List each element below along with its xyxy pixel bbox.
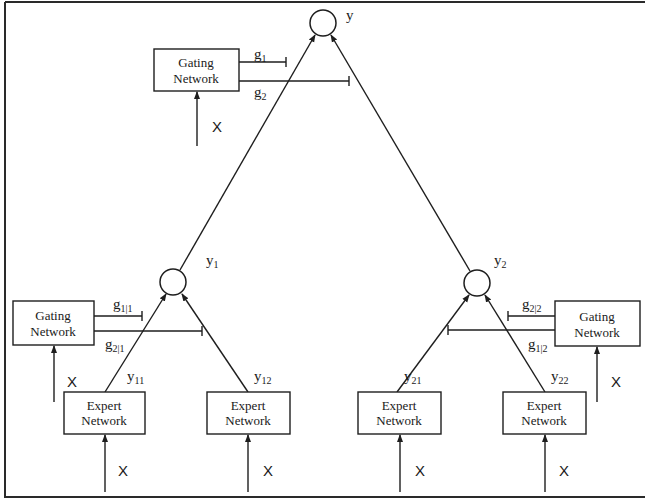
y1-label: y1 <box>206 252 219 270</box>
y2-label: y2 <box>494 252 507 270</box>
top-gating-line2: Network <box>173 71 219 86</box>
expert-11-line2: Network <box>81 413 127 428</box>
edge-y2-to-y <box>331 35 470 271</box>
right-gating-input-label: X <box>611 373 621 390</box>
expert-11-output-label: y11 <box>127 368 144 386</box>
expert-12-input-label: X <box>263 462 273 479</box>
gate-g21-label: g2|1 <box>105 336 125 354</box>
expert-21-line2: Network <box>376 413 422 428</box>
left-gating-input-label: X <box>67 373 77 390</box>
gate-g2-label: g2 <box>254 84 267 102</box>
expert-11-input-label: X <box>118 462 128 479</box>
expert-22-output-label: y22 <box>551 368 569 386</box>
root-output-node <box>310 10 336 36</box>
top-gating-input-label: X <box>212 118 222 135</box>
left-gating-line2: Network <box>30 324 76 339</box>
edge-y12-to-y1 <box>182 294 248 392</box>
expert-21-input-label: X <box>415 462 425 479</box>
expert-22-line1: Expert <box>527 398 562 413</box>
gate-g1-label: g1 <box>254 46 267 64</box>
expert-12-line2: Network <box>225 413 271 428</box>
gate-g12-label: g1|2 <box>528 336 548 354</box>
y2-node <box>464 270 490 296</box>
left-gating-line1: Gating <box>35 308 71 323</box>
gate-g11-label: g1|1 <box>113 296 133 314</box>
expert-21-line1: Expert <box>382 398 417 413</box>
top-gating-line1: Gating <box>178 55 214 70</box>
right-gating-line1: Gating <box>579 309 615 324</box>
expert-22-line2: Network <box>521 413 567 428</box>
hme-diagram: y Gating Network g1 g2 X y1 y2 Gating Ne… <box>0 0 648 503</box>
expert-12-output-label: y12 <box>254 368 272 386</box>
expert-22-input-label: X <box>559 462 569 479</box>
root-output-label: y <box>346 7 354 23</box>
y1-node <box>160 269 186 295</box>
expert-11-line1: Expert <box>87 398 122 413</box>
gate-g22-label: g2|2 <box>522 296 542 314</box>
right-gating-line2: Network <box>574 325 620 340</box>
expert-12-line1: Expert <box>231 398 266 413</box>
